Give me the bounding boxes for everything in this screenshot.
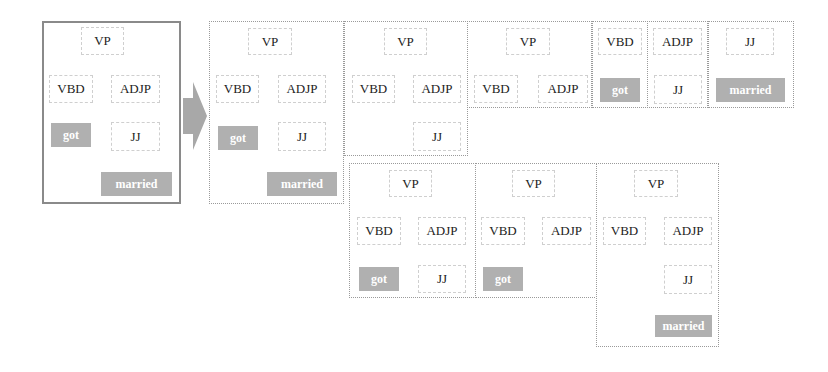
node-vp: VP	[634, 170, 678, 197]
leaf-married: married	[716, 78, 785, 102]
leaf-got: got	[51, 123, 91, 147]
node-jj: JJ	[726, 28, 774, 55]
node-adjp: ADJP	[542, 217, 591, 245]
node-adjp: ADJP	[418, 217, 466, 245]
leaf-married: married	[267, 172, 337, 196]
node-vbd: VBD	[49, 75, 93, 103]
leaf-married: married	[655, 315, 712, 337]
node-jj: JJ	[664, 265, 712, 294]
node-vbd: VBD	[352, 75, 395, 103]
node-vp: VP	[512, 170, 555, 197]
node-vbd: VBD	[474, 75, 518, 103]
leaf-got: got	[359, 267, 399, 291]
node-adjp: ADJP	[413, 75, 461, 103]
node-jj: JJ	[278, 122, 326, 151]
node-adjp: ADJP	[111, 75, 160, 103]
node-vbd: VBD	[603, 217, 646, 245]
node-vp: VP	[81, 27, 124, 55]
leaf-married: married	[101, 172, 172, 196]
node-jj: JJ	[654, 75, 702, 104]
node-vp: VP	[389, 170, 432, 197]
node-vbd: VBD	[357, 217, 401, 245]
node-vp: VP	[384, 28, 427, 55]
node-jj: JJ	[111, 122, 160, 151]
node-vp: VP	[506, 28, 550, 55]
node-adjp: ADJP	[653, 28, 702, 55]
node-adjp: ADJP	[278, 75, 326, 103]
node-adjp: ADJP	[664, 217, 712, 245]
node-jj: JJ	[418, 265, 466, 293]
node-vp: VP	[248, 28, 292, 55]
arrow-right-icon	[183, 82, 207, 150]
node-vbd: VBD	[216, 75, 259, 103]
leaf-got: got	[483, 267, 523, 291]
node-vbd: VBD	[598, 28, 642, 55]
leaf-got: got	[218, 126, 258, 150]
node-jj: JJ	[413, 122, 461, 151]
node-vbd: VBD	[481, 217, 525, 245]
node-adjp: ADJP	[538, 75, 588, 103]
leaf-got: got	[600, 78, 640, 102]
